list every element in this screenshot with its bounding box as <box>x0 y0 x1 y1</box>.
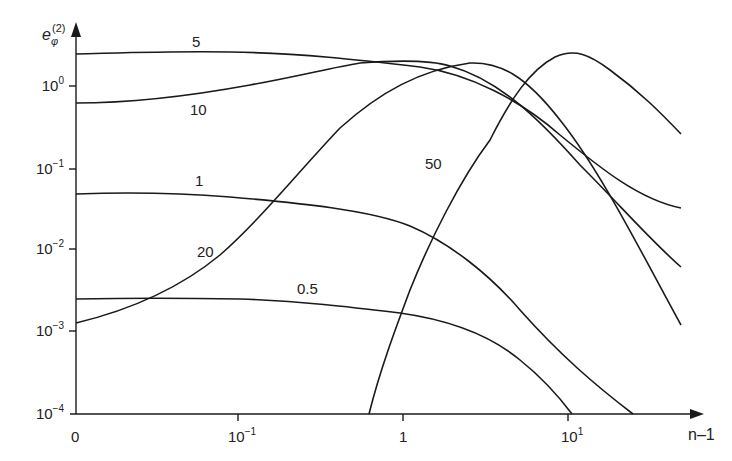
y-tick-label: 10−2 <box>14 240 64 257</box>
curve-label-20: 20 <box>197 243 214 260</box>
y-axis-arrow-icon <box>71 22 81 37</box>
curve-1 <box>76 193 633 414</box>
curves <box>76 52 681 414</box>
curve-5 <box>76 52 681 208</box>
y-label-sup: (2) <box>52 22 65 34</box>
y-tick-label: 10−3 <box>14 322 64 339</box>
curve-50 <box>369 53 681 414</box>
x-axis-label: n–1 <box>688 426 715 444</box>
chart-canvas <box>0 0 732 461</box>
curve-label-0-5: 0.5 <box>297 280 318 297</box>
curve-label-50: 50 <box>425 155 442 172</box>
y-axis-label: eφ(2) <box>42 26 72 44</box>
curve-0-5 <box>76 298 572 414</box>
y-tick-label: 10−4 <box>14 405 64 422</box>
x-tick-label: 0 <box>71 428 79 445</box>
x-tick-label: 1 <box>399 428 407 445</box>
curve-label-5: 5 <box>192 33 200 50</box>
y-label-sub: φ <box>51 35 58 47</box>
x-axis-arrow-icon <box>690 409 704 419</box>
y-tick-label: 100 <box>14 77 64 94</box>
curve-label-1: 1 <box>195 172 203 189</box>
y-label-main: e <box>42 26 51 43</box>
y-tick-label: 10−1 <box>14 160 64 177</box>
x-tick-label: 10−1 <box>228 428 256 445</box>
axes <box>69 30 696 421</box>
x-tick-label: 101 <box>561 428 583 445</box>
curve-label-10: 10 <box>190 101 207 118</box>
